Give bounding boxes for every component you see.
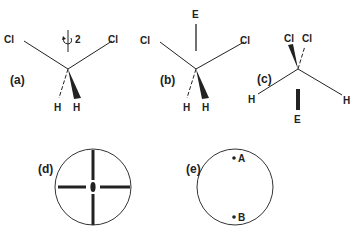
- mirror-plane-vertical-bottom: [92, 194, 95, 225]
- atom-cl-right: Cl: [302, 33, 312, 44]
- panel-b: E Cl Cl H H (b): [140, 9, 250, 113]
- rotation-axis-icon: [62, 30, 72, 52]
- bond-wedge-h: [196, 69, 209, 99]
- point-b-label: B: [238, 212, 245, 223]
- atom-e-top: E: [192, 9, 199, 20]
- bond-c-cl-left: [160, 42, 196, 69]
- point-a-dot: [232, 156, 236, 160]
- bond-dashed-h: [187, 69, 196, 98]
- panel-a: Cl Cl H H 2 (a): [4, 30, 118, 113]
- bond-dashed-cl: [298, 46, 305, 69]
- panel-d: (d): [38, 149, 131, 225]
- bond-c-cl-right: [68, 41, 112, 69]
- atom-cl-left: Cl: [4, 34, 14, 45]
- atom-h-right: H: [343, 95, 350, 106]
- stereographic-circle: [197, 149, 273, 225]
- atom-h-left: H: [183, 102, 190, 113]
- panel-e: A B (e): [186, 149, 273, 225]
- mirror-plane-edge: [296, 89, 300, 110]
- atom-h-right: H: [73, 102, 80, 113]
- panel-label-c: (c): [257, 72, 272, 86]
- bond-wedge-cl: [288, 44, 298, 69]
- panel-label-d: (d): [38, 162, 53, 176]
- point-b-dot: [232, 215, 236, 219]
- atom-cl-left: Cl: [140, 35, 150, 46]
- atom-e-bottom: E: [294, 114, 301, 125]
- panel-c: Cl Cl H H E (c): [248, 33, 350, 125]
- atom-h-left: H: [54, 102, 61, 113]
- mirror-plane-horizontal-left: [58, 186, 86, 189]
- axis-order-label: 2: [75, 34, 81, 45]
- panel-label-e: (e): [186, 162, 201, 176]
- bond-wedge-h: [68, 69, 81, 99]
- panel-label-b: (b): [160, 73, 175, 87]
- atom-h-left: H: [248, 94, 255, 105]
- atom-h-right: H: [202, 102, 209, 113]
- bond-c-cl-right: [196, 42, 244, 69]
- bond-c-cl-left: [24, 41, 68, 69]
- atom-cl-left: Cl: [284, 33, 294, 44]
- mirror-plane-horizontal-right: [100, 186, 130, 189]
- symmetry-diagram: Cl Cl H H 2 (a) E Cl Cl H H (b) Cl Cl: [0, 0, 362, 240]
- panel-label-a: (a): [10, 73, 25, 87]
- atom-cl-right: Cl: [108, 34, 118, 45]
- bond-dashed-h: [59, 69, 68, 98]
- bond-c-h-right: [298, 69, 342, 95]
- point-a-label: A: [238, 153, 245, 164]
- atom-cl-right: Cl: [240, 35, 250, 46]
- twofold-axis-icon: [90, 182, 95, 192]
- mirror-plane-vertical-top: [92, 150, 95, 180]
